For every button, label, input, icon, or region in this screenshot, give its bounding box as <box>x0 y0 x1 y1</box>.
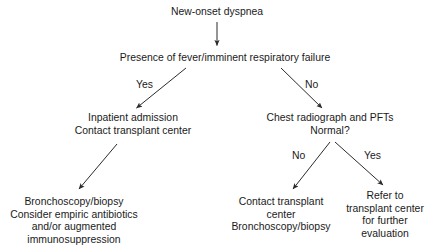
node-refer-line-4: evaluation <box>346 228 424 241</box>
edge-label-fever-no: No <box>305 79 318 91</box>
flowchart-diagram: New-onset dyspnea Presence of fever/immi… <box>0 0 440 247</box>
node-bronch-line-3: and/or augmented <box>10 221 138 234</box>
node-root-line-1: New-onset dyspnea <box>171 6 263 19</box>
node-fever-line-1: Presence of fever/imminent respiratory f… <box>120 52 331 65</box>
node-chest-line-2: Normal? <box>267 125 394 138</box>
edge-chest-to-refer <box>335 142 383 185</box>
node-refer-line-3: for further <box>346 215 424 228</box>
edge-label-chest-yes: Yes <box>364 150 381 162</box>
node-bronchoscopy-biopsy-empiric: Bronchoscopy/biopsy Consider empiric ant… <box>10 196 138 246</box>
node-contact-line-3: Bronchoscopy/biopsy <box>231 221 330 234</box>
node-bronch-line-4: immunosuppression <box>10 234 138 247</box>
node-contact-transplant-center: Contact transplant center Bronchoscopy/b… <box>231 196 330 234</box>
node-inpatient-line-2: Contact transplant center <box>75 125 192 138</box>
node-refer-line-1: Refer to <box>346 190 424 203</box>
node-refer-line-2: transplant center <box>346 203 424 216</box>
edge-label-chest-no: No <box>292 150 305 162</box>
edge-label-fever-yes: Yes <box>136 79 153 91</box>
node-chest-radiograph-pfts: Chest radiograph and PFTs Normal? <box>267 112 394 137</box>
node-bronch-line-2: Consider empiric antibiotics <box>10 209 138 222</box>
node-chest-line-1: Chest radiograph and PFTs <box>267 112 394 125</box>
node-new-onset-dyspnea: New-onset dyspnea <box>171 6 263 19</box>
node-contact-line-1: Contact transplant <box>231 196 330 209</box>
node-contact-line-2: center <box>231 209 330 222</box>
node-inpatient-admission: Inpatient admission Contact transplant c… <box>75 112 192 137</box>
node-inpatient-line-1: Inpatient admission <box>75 112 192 125</box>
node-refer-to-transplant-center: Refer to transplant center for further e… <box>346 190 424 240</box>
node-bronch-line-1: Bronchoscopy/biopsy <box>10 196 138 209</box>
edge-inpatient-to-bronch <box>79 144 117 189</box>
node-presence-of-fever: Presence of fever/imminent respiratory f… <box>120 52 331 65</box>
